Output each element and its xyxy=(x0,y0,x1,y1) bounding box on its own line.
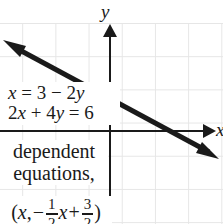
solution-set-ordered-pair: (x,−12x+32) xyxy=(0,196,112,224)
graph-figure: y x x = 3 − 2y 2x + 4y = 6 dependent equ… xyxy=(0,0,223,224)
equation-second-plus: + xyxy=(31,102,42,123)
x-axis xyxy=(0,130,211,132)
solution-comma: , xyxy=(27,201,32,224)
equation-first-constant: 3 xyxy=(37,82,47,103)
equation-first-equals: = xyxy=(21,82,32,103)
solution-close-paren: ) xyxy=(94,201,101,224)
y-axis xyxy=(109,27,111,224)
equation-first-var-x: x xyxy=(8,82,16,103)
annotation-line-1: dependent xyxy=(0,140,108,162)
solution-var-x: x xyxy=(18,201,27,224)
solution-fraction-one-half: 12 xyxy=(46,197,58,224)
solution-fraction-three-halves: 32 xyxy=(82,197,94,224)
equations-callout: x = 3 − 2y 2x + 4y = 6 xyxy=(0,82,120,125)
x-axis-label: x xyxy=(216,120,223,139)
equation-first-minus: − xyxy=(51,82,62,103)
equation-second-coefficient-x: 2 xyxy=(8,102,18,123)
y-axis-label: y xyxy=(101,2,109,21)
equation-first-var-y: y xyxy=(76,82,84,103)
equation-second-coefficient-y: 4 xyxy=(46,102,56,123)
solution-open-paren: ( xyxy=(11,201,18,224)
solution-minus: − xyxy=(33,201,44,224)
annotation-line-2: equations, xyxy=(0,162,108,184)
equation-second-var-y: y xyxy=(56,102,64,123)
fraction-one-half-denominator: 2 xyxy=(46,216,58,224)
solution-plus: + xyxy=(68,201,79,224)
equation-first-coefficient: 2 xyxy=(66,82,76,103)
equation-second-var-x: x xyxy=(18,102,26,123)
y-axis-arrow-icon xyxy=(103,24,117,37)
equation-second: 2x + 4y = 6 xyxy=(8,103,120,123)
x-axis-arrow-icon xyxy=(203,124,216,138)
fraction-one-half-numerator: 1 xyxy=(46,197,58,212)
solution-var-x-2: x xyxy=(59,201,68,224)
equation-first: x = 3 − 2y xyxy=(8,83,120,103)
fraction-three-halves-numerator: 3 xyxy=(82,197,94,212)
equation-second-equals: = xyxy=(69,102,80,123)
equation-second-rhs: 6 xyxy=(84,102,94,123)
fraction-three-halves-denominator: 2 xyxy=(82,216,94,224)
annotation-text: dependent equations, xyxy=(0,140,108,185)
